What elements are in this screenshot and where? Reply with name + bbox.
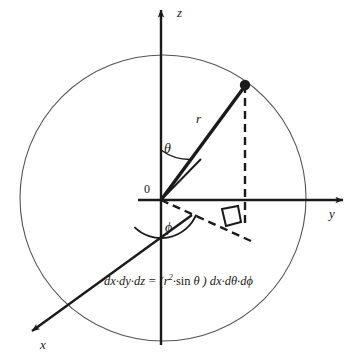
formula-lhs: dx·dy·dz [104,274,145,288]
origin-label: 0 [144,183,150,195]
formula-equals: = [148,274,156,288]
polar-angle-label: θ [164,142,171,156]
x-axis-label: x [40,338,46,351]
radius-vector [161,86,245,200]
right-angle-marker [222,206,241,226]
formula-sin: sin [176,274,191,288]
figure-root: z y x 0 r θ ϕ dx·dy·dz=(r2·sinθ)dx·dθ·dϕ [0,0,357,362]
spherical-coordinates-diagram [0,0,357,362]
formula-rhs: dx·dθ·dϕ [210,274,253,288]
sphere-point-marker [240,80,250,90]
volume-element-formula: dx·dy·dz=(r2·sinθ)dx·dθ·dϕ [0,272,357,289]
y-axis-label: y [329,207,335,220]
z-axis-label: z [177,6,182,19]
formula-theta: θ [193,274,199,288]
formula-close-paren: ) [203,274,207,288]
azimuthal-angle-label: ϕ [165,221,172,235]
radius-label: r [196,112,201,125]
